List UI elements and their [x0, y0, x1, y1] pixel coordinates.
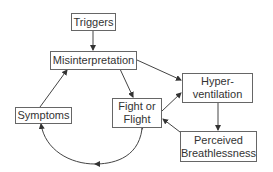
- node-fight-line2: Flight: [124, 113, 151, 126]
- node-misinterpretation-label: Misinterpretation: [53, 54, 134, 67]
- edge-symptoms-misinterpretation: [40, 70, 67, 107]
- node-breath-line1: Perceived: [194, 134, 243, 147]
- node-hyperventilation-line2: ventilation: [193, 88, 243, 101]
- node-symptoms-label: Symptoms: [18, 109, 70, 122]
- edge-fight-hyperventilation: [162, 93, 181, 111]
- node-breath-line2: Breathlessness: [181, 147, 256, 160]
- node-perceived-breathlessness: Perceived Breathlessness: [180, 131, 257, 162]
- edge-misinterpretation-hyperventilation: [137, 60, 181, 80]
- node-misinterpretation: Misinterpretation: [50, 51, 137, 70]
- node-fight-line1: Fight or: [118, 100, 155, 113]
- node-triggers-label: Triggers: [74, 16, 114, 29]
- node-fight-or-flight: Fight or Flight: [112, 98, 162, 128]
- edge-misinterpretation-fight: [120, 69, 133, 97]
- node-triggers: Triggers: [71, 13, 116, 31]
- node-hyperventilation-line1: Hyper-: [201, 75, 234, 88]
- edge-breathlessness-fight: [163, 119, 180, 132]
- edge-arc-symptoms: [41, 124, 95, 164]
- node-symptoms: Symptoms: [15, 107, 72, 124]
- edge-fight-symptoms-arc: [95, 129, 142, 164]
- node-hyperventilation: Hyper- ventilation: [182, 73, 253, 103]
